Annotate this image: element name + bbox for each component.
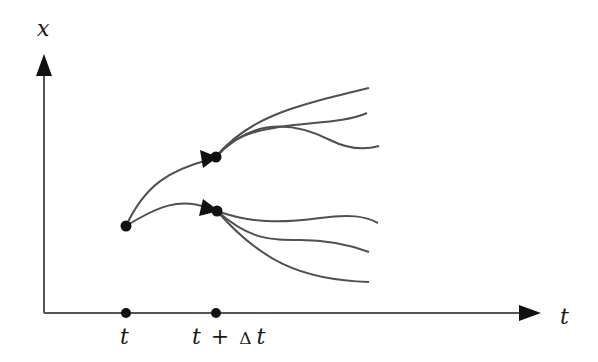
- horizontal-axis-label: t: [560, 304, 569, 329]
- start-node: [121, 221, 132, 232]
- tick-t-label: t: [120, 324, 129, 349]
- tick-t-marker: [121, 308, 131, 318]
- upper-branch-3: [216, 127, 379, 157]
- branch-start-to-upper: [126, 160, 208, 226]
- time-ticks: t t + Δ t: [120, 308, 266, 349]
- branch-start-to-lower: [126, 204, 208, 226]
- vertical-axis-arrow-icon: [36, 54, 52, 76]
- horizontal-axis-arrow-icon: [519, 305, 541, 321]
- upper-node: [211, 152, 222, 163]
- tick-t-plus-dt-label: t + Δ t: [192, 324, 266, 349]
- lower-node: [212, 206, 223, 217]
- upper-fan: [216, 88, 379, 157]
- lower-fan: [217, 211, 378, 282]
- lower-branch-1: [217, 211, 378, 223]
- trajectory-diagram: x t t t + Δ t: [0, 0, 598, 362]
- tick-t-plus-dt-marker: [211, 308, 221, 318]
- vertical-axis-label: x: [37, 16, 50, 41]
- start-branches: [126, 150, 219, 226]
- axes: [36, 54, 541, 321]
